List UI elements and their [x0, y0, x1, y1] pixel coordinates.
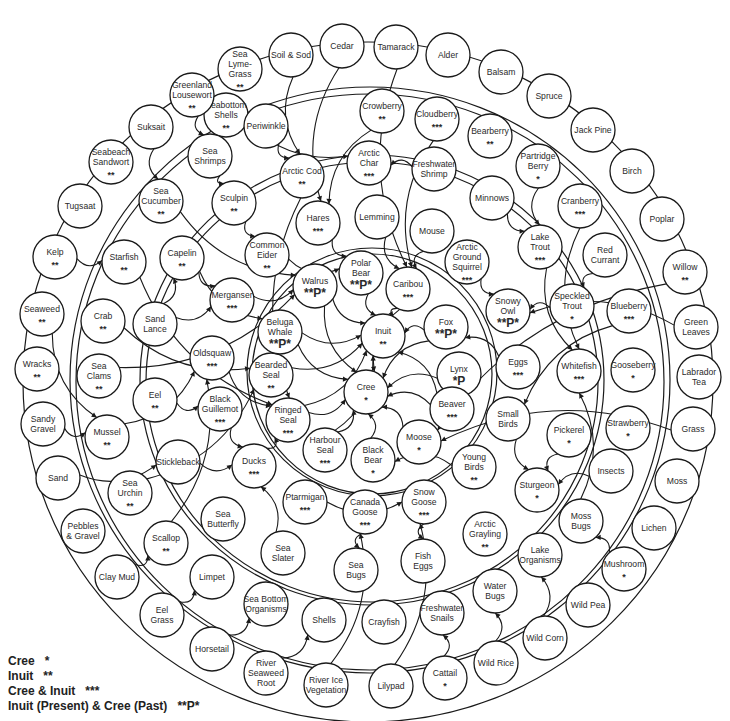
node-label: Crab [94, 311, 113, 321]
node-label: Whale [268, 327, 293, 337]
node-label: Strawberry [607, 418, 649, 428]
node-grass: Grass [671, 407, 715, 451]
node-label: Slater [272, 553, 295, 563]
node-label: Sea Bottom [244, 594, 289, 604]
node-label: Trout [530, 242, 550, 252]
node-wracks: Wracks** [15, 347, 59, 391]
node-pickerel: Pickerel* [547, 413, 591, 457]
node-sculpin: Sculpin** [212, 181, 256, 225]
food-link [285, 77, 300, 154]
node-label: Tamarack [377, 42, 415, 52]
node-whitefish: Whitefish*** [557, 349, 601, 393]
node-label: Red [597, 245, 613, 255]
node-label: Birds [464, 462, 484, 472]
usage-marker: **P* [497, 316, 519, 330]
node-label: Cloudberry [416, 109, 459, 119]
node-label: Sea [232, 49, 248, 59]
node-label: Jack Pine [574, 125, 611, 135]
node-river-ice-vegetation: River IceVegetation [304, 663, 348, 707]
usage-marker: * [536, 174, 540, 184]
node-label: & Gravel [66, 531, 100, 541]
node-label: Seaweed [24, 304, 60, 314]
food-link [382, 407, 403, 427]
node-label: Organisms [245, 604, 287, 614]
node-circle [360, 89, 404, 133]
node-bearded-seal: BeardedSeal** [249, 353, 293, 397]
usage-marker: ** [151, 403, 159, 413]
node-circle [283, 480, 327, 524]
food-link [309, 399, 346, 414]
node-sand: Sand [36, 456, 80, 500]
node-tugsaat: Tugsaat [58, 184, 102, 228]
node-label: Polar [351, 258, 371, 268]
node-label: Lake [531, 232, 550, 242]
node-label: Cedar [330, 41, 354, 51]
node-cedar: Cedar [320, 24, 364, 68]
node-circle [468, 114, 512, 158]
node-label: Sand [145, 314, 165, 324]
node-label: Horsetail [195, 644, 229, 654]
node-seabeach-sandwort: SeabeachSandwort** [89, 140, 133, 184]
node-red-currant: RedCurrant [583, 233, 627, 277]
node-circle [144, 521, 188, 565]
food-link [338, 410, 354, 432]
food-link [596, 537, 610, 552]
node-label: Canada [350, 497, 380, 507]
node-label: Gravel [30, 424, 55, 434]
node-sea-bugs: SeaBugs [334, 548, 378, 592]
node-arctic-ground-squirrel: ArcticGroundSquirrel*** [445, 240, 489, 285]
node-circle [296, 201, 340, 245]
node-label: Owl [501, 306, 516, 316]
node-label: Squirrel [452, 262, 482, 272]
usage-marker: *** [249, 469, 260, 479]
node-insects: Insects [589, 449, 633, 493]
node-label: Wracks [23, 359, 52, 369]
node-label: Insects [597, 466, 624, 476]
node-label: Berry [528, 161, 549, 171]
node-label: Birds [498, 419, 518, 429]
food-link [245, 222, 256, 237]
node-label: Speckled [554, 291, 590, 301]
node-circle [133, 378, 177, 422]
node-circle [496, 345, 540, 389]
usage-marker: ** [178, 261, 186, 271]
node-label: Cucumber [141, 196, 181, 206]
node-sea-lyme-grass: SeaLyme-Grass** [218, 47, 262, 92]
node-label: Ptarmigan [285, 492, 324, 502]
node-walrus: Walrus**P* [293, 264, 337, 308]
node-label: Currant [591, 255, 620, 265]
usage-marker: *** [575, 209, 586, 219]
node-pebbles-gravel: Pebbles& Gravel [61, 509, 105, 553]
node-eel: Eel** [133, 378, 177, 422]
node-label: Lance [143, 324, 167, 334]
node-label: Cattail [433, 668, 457, 678]
node-green-leaves: GreenLeaves [674, 305, 718, 349]
node-spruce: Spruce [527, 74, 571, 118]
node-label: Snowy [495, 296, 521, 306]
node-sea-butterfly: SeaButterfly [201, 497, 245, 541]
usage-marker: **P* [269, 337, 291, 351]
node-speckled-trout: SpeckledTrout* [550, 284, 594, 328]
node-label: Pickerel [554, 425, 585, 435]
food-link [398, 352, 437, 393]
node-label: Green [684, 317, 708, 327]
node-capelin: Capelin** [160, 236, 204, 280]
node-mussel: Mussel** [85, 415, 129, 459]
food-link [195, 116, 204, 135]
node-label: Char [360, 158, 379, 168]
node-circle [611, 348, 655, 392]
node-label: Starfish [109, 252, 138, 262]
node-label: Shells [214, 110, 237, 120]
node-label: Grass [682, 424, 705, 434]
node-label: Freshwater [421, 603, 464, 613]
node-label: Goose [352, 507, 378, 517]
food-link [583, 273, 593, 287]
node-label: River [256, 658, 276, 668]
node-label: Moss [571, 511, 592, 521]
node-label: Trout [562, 301, 582, 311]
usage-marker: * [567, 438, 571, 448]
node-poplar: Poplar [640, 197, 684, 241]
node-label: Tea [692, 377, 706, 387]
node-sturgeon: Sturgeon* [515, 468, 559, 512]
node-label: Sea [91, 361, 107, 371]
